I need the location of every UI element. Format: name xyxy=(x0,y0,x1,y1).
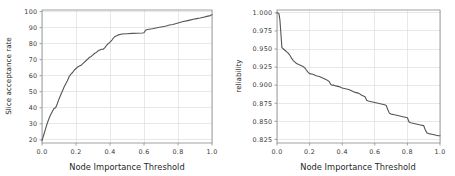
chart-panel-left: 0.00.20.40.60.81.0 2030405060708090100 N… xyxy=(0,0,228,176)
left-gridlines xyxy=(42,10,212,143)
right-plot-frame xyxy=(277,10,440,143)
x-tick-label: 0.6 xyxy=(369,148,380,156)
x-tick-label: 1.0 xyxy=(434,148,445,156)
y-tick-label: 90 xyxy=(29,24,38,32)
y-tick-label: 80 xyxy=(29,40,38,48)
left-x-axis-label: Node Importance Threshold xyxy=(69,162,184,172)
y-tick-label: 0.825 xyxy=(252,136,272,144)
left-x-tick-labels: 0.00.20.40.60.81.0 xyxy=(36,148,217,156)
x-tick-label: 0.4 xyxy=(104,148,115,156)
y-tick-label: 0.900 xyxy=(252,81,272,89)
left-chart-svg: 0.00.20.40.60.81.0 2030405060708090100 N… xyxy=(0,0,228,176)
right-gridlines xyxy=(277,10,440,143)
y-tick-label: 0.950 xyxy=(252,45,272,53)
chart-panel-right: 0.00.20.40.60.81.0 0.8250.8500.8750.9000… xyxy=(228,0,455,176)
right-chart-svg: 0.00.20.40.60.81.0 0.8250.8500.8750.9000… xyxy=(228,0,455,176)
left-data-curve xyxy=(42,15,212,141)
y-tick-label: 1.000 xyxy=(252,9,272,17)
x-tick-label: 0.0 xyxy=(36,148,47,156)
right-y-axis-label: reliability xyxy=(234,59,243,93)
y-tick-label: 60 xyxy=(29,72,38,80)
right-x-tick-labels: 0.00.20.40.60.81.0 xyxy=(271,148,445,156)
right-y-tick-labels: 0.8250.8500.8750.9000.9250.9500.9751.000 xyxy=(252,9,272,143)
y-tick-label: 0.875 xyxy=(252,100,272,108)
x-tick-label: 0.2 xyxy=(304,148,315,156)
x-tick-label: 0.6 xyxy=(138,148,149,156)
x-tick-label: 0.4 xyxy=(337,148,348,156)
left-tickmarks xyxy=(40,12,213,146)
figure-container: 0.00.20.40.60.81.0 2030405060708090100 N… xyxy=(0,0,455,176)
x-tick-label: 0.8 xyxy=(172,148,183,156)
right-data-curve xyxy=(277,13,440,136)
left-y-tick-labels: 2030405060708090100 xyxy=(24,8,37,144)
y-tick-label: 100 xyxy=(24,8,37,16)
right-tickmarks xyxy=(275,13,441,146)
y-tick-label: 70 xyxy=(29,56,38,64)
y-tick-label: 50 xyxy=(29,88,38,96)
x-tick-label: 0.0 xyxy=(271,148,282,156)
left-plot-frame xyxy=(42,10,212,143)
y-tick-label: 20 xyxy=(29,136,38,144)
y-tick-label: 30 xyxy=(29,120,38,128)
y-tick-label: 0.975 xyxy=(252,27,272,35)
y-tick-label: 40 xyxy=(29,104,38,112)
left-y-axis-label: Slice acceptance rate xyxy=(4,37,13,115)
y-tick-label: 0.925 xyxy=(252,63,272,71)
y-tick-label: 0.850 xyxy=(252,118,272,126)
right-x-axis-label: Node Importance Threshold xyxy=(300,162,415,172)
x-tick-label: 1.0 xyxy=(206,148,217,156)
x-tick-label: 0.2 xyxy=(70,148,81,156)
x-tick-label: 0.8 xyxy=(402,148,413,156)
